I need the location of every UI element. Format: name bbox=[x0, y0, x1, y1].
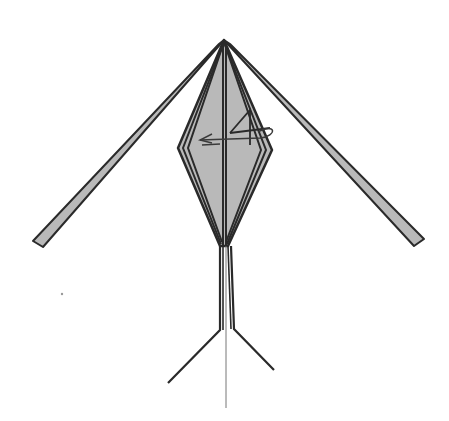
arrow-underline bbox=[202, 144, 220, 145]
diagram-canvas bbox=[0, 0, 449, 421]
speck bbox=[61, 293, 63, 295]
origami-diagram bbox=[0, 0, 449, 421]
